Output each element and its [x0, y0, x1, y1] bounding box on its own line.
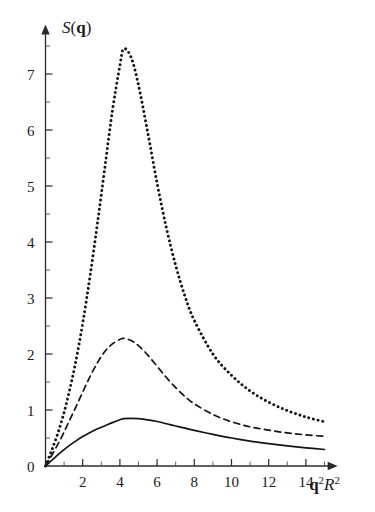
figure-container: 012345672468101214 S(q) q2R2 [0, 0, 375, 512]
curves-group [46, 49, 325, 466]
curve-dashed [46, 338, 325, 466]
x-tick-label: 8 [191, 474, 199, 490]
curve-solid [46, 418, 325, 466]
y-tick-label: 5 [27, 179, 35, 195]
y-tick-label: 1 [27, 403, 35, 419]
x-tick-label: 6 [153, 474, 161, 490]
x-axis-arrowhead [328, 462, 338, 470]
x-tick-label: 4 [116, 474, 124, 490]
x-tick-label: 10 [224, 474, 239, 490]
axes-group [41, 24, 337, 470]
x-axis-title: q2R2 [309, 474, 340, 494]
curve-dotted [46, 49, 325, 466]
structure-factor-plot: 012345672468101214 S(q) q2R2 [0, 0, 375, 512]
tick-labels-group: 012345672468101214 [27, 67, 314, 491]
ticks-group [46, 46, 325, 466]
y-tick-label: 2 [27, 347, 35, 363]
y-tick-label: 7 [27, 67, 35, 83]
y-axis-arrowhead [41, 24, 49, 34]
y-axis-title: S(q) [62, 18, 91, 37]
x-tick-label: 2 [79, 474, 87, 490]
y-tick-label: 0 [27, 459, 35, 475]
y-tick-label: 4 [27, 235, 35, 251]
y-tick-label: 6 [27, 123, 35, 139]
y-tick-label: 3 [27, 291, 35, 307]
x-tick-label: 12 [261, 474, 276, 490]
